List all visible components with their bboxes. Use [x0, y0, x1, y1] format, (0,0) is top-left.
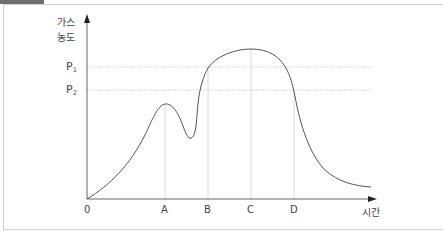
p2-label-main: P — [66, 83, 73, 96]
x-axis-arrow-icon — [368, 196, 377, 202]
time-mark-b: B — [204, 205, 211, 215]
p2-label-sub: 2 — [73, 89, 77, 97]
time-mark-c: C — [247, 205, 254, 215]
y-axis-arrow-icon — [84, 14, 90, 23]
time-mark-a: A — [161, 205, 168, 215]
x-axis-label: 시간 — [362, 208, 380, 218]
time-mark-d: D — [290, 205, 298, 215]
y-axis-label-line2: 농도 — [57, 33, 75, 43]
concentration-curve — [87, 49, 371, 199]
p2-label: P2 — [66, 84, 77, 97]
y-axis-label: 가스 농도 — [57, 18, 75, 43]
origin-label: 0 — [84, 205, 90, 215]
y-axis-label-line1: 가스 — [57, 18, 75, 28]
p1-label-sub: 1 — [73, 66, 77, 74]
p1-label-main: P — [66, 60, 73, 73]
p1-label: P1 — [66, 61, 77, 74]
